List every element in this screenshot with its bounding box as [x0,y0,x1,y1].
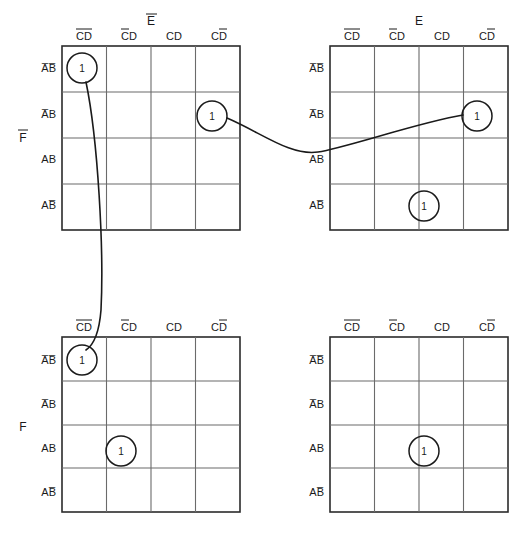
row-header-2: AB [309,442,324,454]
column-header-3: CD [211,30,227,42]
map-top-left-title: E [147,14,155,28]
row-header-2: AB [309,153,324,165]
column-header-0: CD [76,321,92,333]
group-label-bottom: F [19,420,26,434]
row-header-0: A̅B̅ [41,62,56,74]
column-header-1: CD [121,30,137,42]
column-header-2: CD [434,321,450,333]
row-header-3: AB̅ [41,486,56,498]
map-bottom-left-row-headers: A̅B̅ A̅B AB AB̅ [41,354,56,498]
row-header-2: AB [41,153,56,165]
map-bottom-left-grid [62,337,240,512]
map-bottom-right-column-headers: CD CD CD CD [344,320,495,333]
group-label-bottom-text: F [19,420,26,434]
column-header-1: CD [389,30,405,42]
map-top-right-one-0: 1 [462,101,492,131]
map-top-left-one-0: 1 [67,53,97,83]
row-header-1: A̅B [41,398,56,410]
column-header-0: CD [344,321,360,333]
group-label-top-text: F [19,131,26,145]
row-header-1: A̅B [309,398,324,410]
one-value: 1 [118,446,124,457]
column-header-3: CD [479,30,495,42]
link-curve-vertical [86,82,102,350]
column-header-0: CD [344,30,360,42]
row-header-3: AB̅ [309,486,324,498]
column-header-3: CD [211,321,227,333]
map-top-right-title: E [415,14,423,28]
row-header-0: A̅B̅ [309,354,324,366]
column-header-2: CD [166,30,182,42]
row-header-2: AB [41,442,56,454]
kmap-canvas: E CD CD CD CD A̅B̅ A̅B AB AB̅ [0,0,510,542]
column-header-2: CD [434,30,450,42]
one-value: 1 [474,111,480,122]
map-top-right-row-headers: A̅B̅ A̅B AB AB̅ [309,62,324,211]
group-label-top: F [18,130,28,145]
map-top-right-grid [330,46,508,230]
row-header-3: AB̅ [309,199,324,211]
map-top-right-one-1: 1 [409,191,439,221]
map-bottom-left-one-1: 1 [106,436,136,466]
column-header-0: CD [76,30,92,42]
one-value: 1 [79,63,85,74]
map-top-left-grid [62,46,240,230]
kmap-figure: E CD CD CD CD A̅B̅ A̅B AB AB̅ [0,0,510,542]
map-bottom-left-one-0: 1 [67,345,97,375]
column-header-2: CD [166,321,182,333]
map-top-right-column-headers: CD CD CD CD [344,29,495,42]
map-top-left-row-headers: A̅B̅ A̅B AB AB̅ [41,62,56,211]
one-value: 1 [209,111,215,122]
one-value: 1 [79,355,85,366]
one-value: 1 [421,201,427,212]
row-header-0: A̅B̅ [41,354,56,366]
map-top-left-one-1: 1 [197,101,227,131]
map-top-right: E CD CD CD CD A̅B̅ A̅B AB AB̅ [309,14,508,230]
map-bottom-right-row-headers: A̅B̅ A̅B AB AB̅ [309,354,324,498]
one-value: 1 [421,446,427,457]
row-header-3: AB̅ [41,199,56,211]
map-bottom-right-one-0: 1 [409,436,439,466]
map-top-left-column-headers: CD CD CD CD [76,29,227,42]
row-header-1: A̅B [41,108,56,120]
row-header-1: A̅B [309,108,324,120]
link-curve-horizontal [227,115,463,152]
row-header-0: A̅B̅ [309,62,324,74]
map-bottom-right: CD CD CD CD A̅B̅ A̅B AB AB̅ [309,320,508,512]
map-bottom-right-grid [330,337,508,512]
column-header-3: CD [479,321,495,333]
column-header-1: CD [121,321,137,333]
column-header-1: CD [389,321,405,333]
map-bottom-left: CD CD CD CD A̅B̅ A̅B AB AB̅ [41,320,240,512]
map-top-left: E CD CD CD CD A̅B̅ A̅B AB AB̅ [41,14,240,230]
